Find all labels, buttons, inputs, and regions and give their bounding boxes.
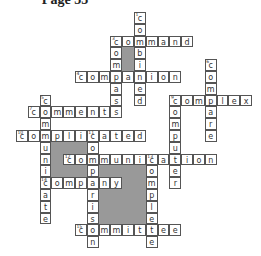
grid-cell[interactable]: t (146, 224, 158, 236)
grid-cell[interactable]: i (134, 59, 146, 71)
grid-cell[interactable]: e (228, 95, 240, 107)
grid-cell[interactable]: o (146, 165, 158, 177)
grid-cell[interactable]: i (181, 154, 193, 166)
grid-cell[interactable]: e (122, 130, 134, 142)
grid-cell[interactable]: n (87, 106, 99, 118)
grid-cell[interactable]: r (87, 189, 99, 201)
grid-cell[interactable]: c13 (146, 154, 158, 166)
grid-cell[interactable]: e (169, 224, 181, 236)
grid-cell[interactable]: i (75, 130, 87, 142)
grid-cell[interactable]: m (205, 83, 217, 95)
grid-cell[interactable]: c12 (63, 154, 75, 166)
grid-cell[interactable]: e (205, 130, 217, 142)
grid-cell[interactable]: t (99, 106, 111, 118)
grid-cell[interactable]: a (40, 189, 52, 201)
grid-cell[interactable]: o (158, 71, 170, 83)
grid-cell[interactable]: e (146, 236, 158, 248)
grid-cell[interactable]: m (110, 59, 122, 71)
grid-cell[interactable]: t (40, 201, 52, 213)
grid-cell[interactable]: o (134, 24, 146, 36)
grid-cell[interactable]: m (169, 118, 181, 130)
grid-cell[interactable]: c10 (16, 130, 28, 142)
grid-cell[interactable]: o (87, 71, 99, 83)
grid-cell[interactable]: c1 (134, 12, 146, 24)
grid-cell[interactable]: o (193, 154, 205, 166)
grid-cell[interactable]: p (110, 71, 122, 83)
grid-cell[interactable]: e (158, 224, 170, 236)
grid-cell[interactable]: n (122, 154, 134, 166)
grid-cell[interactable]: c4 (75, 71, 87, 83)
grid-cell[interactable]: p (87, 165, 99, 177)
grid-cell[interactable]: c11 (87, 130, 99, 142)
grid-cell[interactable]: o (40, 106, 52, 118)
grid-cell[interactable]: n (169, 36, 181, 48)
grid-cell[interactable]: s (110, 95, 122, 107)
grid-cell[interactable]: m (99, 154, 111, 166)
grid-cell[interactable]: r (169, 177, 181, 189)
grid-cell[interactable]: p (169, 130, 181, 142)
grid-cell[interactable]: o (169, 106, 181, 118)
grid-cell[interactable]: e (169, 165, 181, 177)
grid-cell[interactable]: a (158, 36, 170, 48)
grid-cell[interactable]: u (40, 142, 52, 154)
grid-cell[interactable]: o (28, 130, 40, 142)
grid-cell[interactable]: u (169, 142, 181, 154)
grid-cell[interactable]: o (205, 71, 217, 83)
grid-cell[interactable]: o (51, 177, 63, 189)
grid-cell[interactable]: a (122, 71, 134, 83)
grid-cell[interactable]: e (75, 106, 87, 118)
grid-cell[interactable]: o (110, 47, 122, 59)
grid-cell[interactable]: r (205, 118, 217, 130)
grid-cell[interactable]: d (181, 36, 193, 48)
grid-cell[interactable]: m (51, 106, 63, 118)
grid-cell[interactable]: d (134, 95, 146, 107)
grid-cell[interactable]: i (122, 224, 134, 236)
grid-cell[interactable]: e (146, 213, 158, 225)
grid-cell[interactable]: i (134, 154, 146, 166)
grid-cell[interactable]: u (110, 154, 122, 166)
grid-cell[interactable]: l (63, 130, 75, 142)
grid-cell[interactable]: t (169, 154, 181, 166)
grid-cell[interactable]: e (40, 213, 52, 225)
grid-cell[interactable]: x (240, 95, 252, 107)
grid-cell[interactable]: o (181, 95, 193, 107)
grid-cell[interactable]: i (146, 71, 158, 83)
grid-cell[interactable]: c3 (110, 36, 122, 48)
grid-cell[interactable]: n (134, 71, 146, 83)
grid-cell[interactable]: l (217, 95, 229, 107)
grid-cell[interactable]: o (87, 224, 99, 236)
grid-cell[interactable]: m (63, 177, 75, 189)
grid-cell[interactable]: o (122, 36, 134, 48)
grid-cell[interactable]: a (87, 177, 99, 189)
grid-cell[interactable]: c9 (169, 95, 181, 107)
grid-cell[interactable]: n (40, 154, 52, 166)
grid-cell[interactable]: n (99, 177, 111, 189)
grid-cell[interactable]: c5 (40, 95, 52, 107)
grid-cell[interactable]: m (146, 177, 158, 189)
grid-cell[interactable]: l (146, 201, 158, 213)
grid-cell[interactable]: s (87, 213, 99, 225)
grid-cell[interactable]: c6 (205, 59, 217, 71)
grid-cell[interactable]: m (87, 154, 99, 166)
grid-cell[interactable]: n (87, 236, 99, 248)
grid-cell[interactable]: d (134, 130, 146, 142)
grid-cell[interactable]: p (205, 95, 217, 107)
grid-cell[interactable]: m (193, 95, 205, 107)
grid-cell[interactable]: c7 (28, 106, 40, 118)
grid-cell[interactable]: m (146, 36, 158, 48)
grid-cell[interactable]: t (134, 224, 146, 236)
grid-cell[interactable]: n (169, 71, 181, 83)
grid-cell[interactable]: m (99, 71, 111, 83)
grid-cell[interactable]: b (134, 47, 146, 59)
grid-cell[interactable]: s (110, 106, 122, 118)
grid-cell[interactable]: o (75, 154, 87, 166)
grid-cell[interactable]: m (63, 106, 75, 118)
grid-cell[interactable]: o (87, 142, 99, 154)
grid-cell[interactable]: a (158, 154, 170, 166)
grid-cell[interactable]: c14 (40, 177, 52, 189)
grid-cell[interactable]: t (110, 130, 122, 142)
grid-cell[interactable]: c15 (75, 224, 87, 236)
grid-cell[interactable]: m (40, 130, 52, 142)
grid-cell[interactable]: m (40, 118, 52, 130)
grid-cell[interactable]: a (205, 106, 217, 118)
